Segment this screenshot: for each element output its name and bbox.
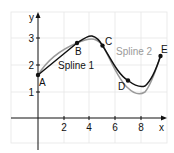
x-axis-label: x [159,122,164,133]
x-tick-label: 6 [112,122,118,133]
x-tick-label: 4 [86,122,92,133]
x-axis-arrow-icon [161,116,167,121]
point-c-label: C [105,36,112,47]
x-tick-label: 2 [61,122,67,133]
y-tick-label: 3 [28,33,34,44]
point-a-label: A [39,77,46,88]
point-d-marker [126,78,130,82]
point-d-label: D [118,81,125,92]
y-axis-arrow-icon [36,12,41,18]
point-b-label: B [75,46,82,57]
y-tick-label: 2 [28,60,34,71]
y-axis-label: y [29,12,34,23]
y-tick-label: 1 [28,87,34,98]
spline-chart: 2 4 6 8 1 2 3 y x A B C D E Spline 1 Spl… [0,0,174,153]
spline-1-curve [38,36,161,87]
point-b-marker [75,41,79,45]
x-tick-label: 8 [138,122,144,133]
point-e-label: E [161,44,168,55]
spline-1-label: Spline 1 [58,60,95,71]
spline-2-label: Spline 2 [116,46,153,57]
